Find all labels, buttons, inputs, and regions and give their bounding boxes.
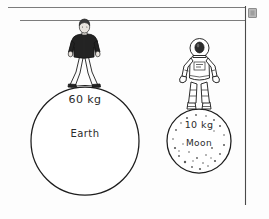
astronaut-leg-right [201,82,210,103]
person-figure [68,19,101,88]
diagram-page: 60 kg Earth [0,0,269,219]
moon-body-label: Moon [186,138,212,148]
earth-mass-label: 60 kg [69,93,102,106]
astronaut-neck-ring [193,56,206,58]
astronaut-visor-highlight [197,44,200,48]
person-shoe-left [68,84,77,88]
earth-group: 60 kg Earth [31,19,139,195]
person-hand-left [68,51,73,57]
moon-group: 10 kg Moon [167,39,231,174]
astronaut-glove-left [180,76,187,83]
person-shoe-right [92,84,101,88]
astronaut-leg-left [189,82,198,103]
diagram-canvas: 60 kg Earth [0,0,269,219]
astronaut-figure [180,39,220,110]
person-leg-left [70,55,83,87]
moon-mass-label: 10 kg [185,119,214,130]
earth-body-label: Earth [71,128,100,139]
person-hand-right [96,51,101,57]
person-leg-right [85,55,98,87]
astronaut-visor [195,42,204,53]
astronaut-glove-right [213,76,220,83]
page-marker-icon[interactable] [249,9,257,18]
